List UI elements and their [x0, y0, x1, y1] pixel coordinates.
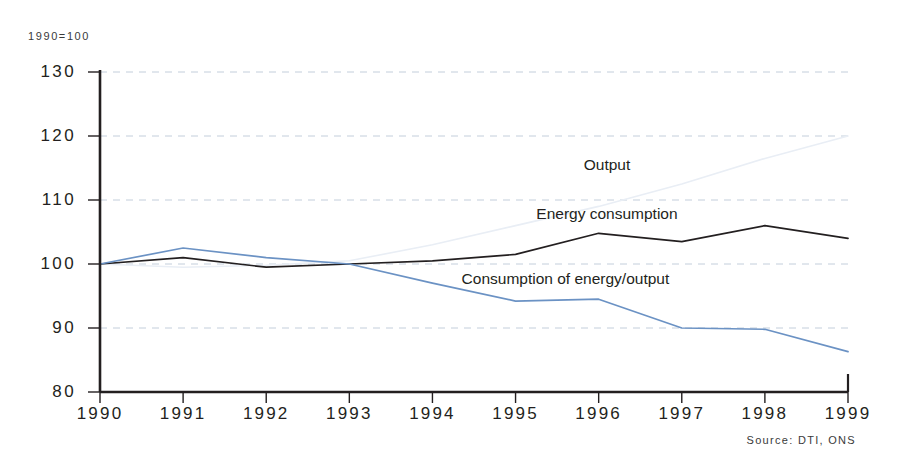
y-tick-label-100: 100	[12, 254, 76, 274]
x-tick-label-1992: 1992	[221, 404, 311, 424]
x-tick-label-1998: 1998	[720, 404, 810, 424]
series-line-2	[100, 248, 848, 352]
series-label-2: Consumption of energy/output	[462, 270, 670, 288]
x-tick-label-1999: 1999	[803, 404, 893, 424]
y-tick-label-80: 80	[12, 382, 76, 402]
x-tick-label-1993: 1993	[304, 404, 394, 424]
y-tick-label-130: 130	[12, 62, 76, 82]
chart-figure: 1990=100 8090100110120130 19901991199219…	[0, 0, 906, 466]
x-tick-label-1995: 1995	[471, 404, 561, 424]
x-tick-label-1997: 1997	[637, 404, 727, 424]
x-tick-label-1991: 1991	[138, 404, 228, 424]
y-tick-label-90: 90	[12, 318, 76, 338]
series-label-1: Energy consumption	[536, 205, 677, 223]
series-line-0	[100, 136, 848, 267]
index-base-note: 1990=100	[28, 30, 90, 42]
series-line-1	[100, 226, 848, 268]
y-tick-label-110: 110	[12, 190, 76, 210]
x-tick-label-1990: 1990	[55, 404, 145, 424]
x-tick-label-1996: 1996	[554, 404, 644, 424]
source-note: Source: DTI, ONS	[747, 434, 856, 446]
plot-area	[0, 0, 906, 466]
x-tick-label-1994: 1994	[387, 404, 477, 424]
series-label-0: Output	[584, 156, 631, 174]
y-tick-label-120: 120	[12, 126, 76, 146]
